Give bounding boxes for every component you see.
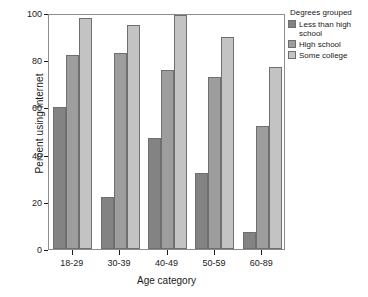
y-axis-tick-labels: 020406080100 [20, 0, 42, 297]
bar [208, 77, 221, 249]
legend-title: Degrees grouped [290, 8, 368, 17]
y-axis-tick-mark [44, 156, 48, 157]
bar [53, 107, 66, 249]
x-axis-tick-label: 60-89 [231, 258, 291, 268]
plot-area [48, 14, 285, 250]
y-axis-tick-label: 0 [20, 246, 42, 255]
x-axis-tick-mark [119, 250, 120, 255]
bar [79, 18, 92, 249]
legend-item-label: High school [299, 40, 341, 49]
bar [221, 37, 234, 249]
y-axis-tick-label: 80 [20, 57, 42, 66]
x-axis-tick-mark [167, 250, 168, 255]
bar [114, 53, 127, 249]
bar [101, 197, 114, 249]
y-axis-tick-label: 60 [20, 104, 42, 113]
x-axis-tick-mark [72, 250, 73, 255]
legend-swatch-icon [288, 40, 296, 48]
legend-item-label: Less than high school [299, 20, 351, 38]
bar [66, 55, 79, 249]
bar-group [243, 15, 282, 249]
bar [127, 25, 140, 249]
legend-item[interactable]: Some college [288, 51, 368, 60]
bar [256, 126, 269, 249]
y-axis-tick-label: 20 [20, 198, 42, 207]
bar-group [195, 15, 234, 249]
legend-swatch-icon [288, 20, 296, 28]
legend-entries: Less than high schoolHigh schoolSome col… [288, 20, 368, 60]
y-axis-tick-mark [44, 250, 48, 251]
bar-group [101, 15, 140, 249]
y-axis-tick-mark [44, 108, 48, 109]
x-axis-tick-mark [214, 250, 215, 255]
bar-group [148, 15, 187, 249]
bar [161, 70, 174, 249]
bar [195, 173, 208, 249]
legend: Degrees grouped Less than high schoolHig… [288, 8, 368, 62]
legend-item[interactable]: High school [288, 40, 368, 49]
legend-swatch-icon [288, 51, 296, 59]
y-axis-tick-mark [44, 203, 48, 204]
bar-group [53, 15, 92, 249]
legend-item-label: Some college [299, 51, 347, 60]
x-axis-title: Age category [48, 275, 285, 286]
y-axis-tick-label: 100 [20, 10, 42, 19]
y-axis-tick-mark [44, 61, 48, 62]
bars-container [49, 15, 284, 249]
bar [174, 15, 187, 249]
bar [148, 138, 161, 249]
y-axis-tick-label: 40 [20, 151, 42, 160]
bar [243, 232, 256, 249]
y-axis-tick-mark [44, 14, 48, 15]
bar-chart-figure: Percent using Internet 020406080100 Age … [0, 0, 368, 297]
x-axis-tick-mark [261, 250, 262, 255]
legend-item[interactable]: Less than high school [288, 20, 368, 38]
bar [269, 67, 282, 249]
